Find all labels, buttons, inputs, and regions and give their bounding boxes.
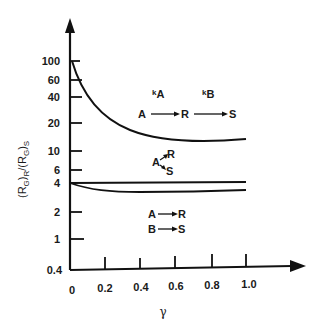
parallel-S: S	[166, 165, 173, 177]
y-tick-label: 40	[48, 91, 60, 103]
chart: 100 60 40 20 10 6 4 2 1 0.4 0 0.2 0.4 0.…	[0, 0, 318, 325]
indep-A: A	[148, 208, 156, 220]
y-tick-label: 4	[54, 177, 61, 189]
y-tick-label: 60	[48, 74, 60, 86]
arrow-head-icon	[222, 112, 228, 117]
x-tick-label: 0.4	[133, 281, 149, 293]
y-axis-label: (RG)R/(RG)S	[16, 141, 31, 198]
parallel-R: R	[167, 148, 175, 160]
x-tick-label: 1.0	[241, 278, 256, 290]
series-A: A	[138, 108, 146, 120]
svg-text:(RG)R/(RG)S: (RG)R/(RG)S	[16, 141, 31, 198]
indep-R: R	[178, 208, 186, 220]
kA-label: kA	[152, 88, 164, 100]
series-R: R	[181, 108, 189, 120]
y-tick-label: 6	[54, 164, 60, 176]
x-axis-arrow-icon	[290, 260, 306, 272]
parallel-curve	[70, 182, 246, 183]
y-tick-label: 0.4	[47, 264, 63, 276]
y-tick-label: 1	[54, 233, 60, 245]
series-curve-upper	[72, 61, 246, 141]
x-axis-label: γ	[159, 305, 166, 319]
x-tick-label: 0.6	[168, 280, 183, 292]
x-tick-labels: 0 0.2 0.4 0.6 0.8 1.0	[69, 278, 257, 296]
arrow-head-icon	[174, 112, 180, 117]
indep-B: B	[148, 223, 156, 235]
series-S: S	[229, 108, 236, 120]
y-tick-label: 10	[48, 145, 60, 157]
kB-label: kB	[202, 88, 214, 100]
x-axis	[70, 266, 292, 270]
x-tick-label: 0.2	[97, 282, 112, 294]
x-tick-label: 0.8	[204, 279, 219, 291]
y-tick-label: 100	[42, 55, 60, 67]
independent-curve	[70, 183, 246, 192]
y-tick-labels: 100 60 40 20 10 6 4 2 1 0.4	[42, 55, 63, 276]
y-tick-label: 20	[48, 117, 60, 129]
parallel-A: A	[152, 156, 160, 168]
y-tick-label: 2	[54, 206, 60, 218]
x-tick-label: 0	[69, 284, 75, 296]
indep-S: S	[178, 223, 185, 235]
y-axis-arrow-icon	[65, 18, 75, 33]
